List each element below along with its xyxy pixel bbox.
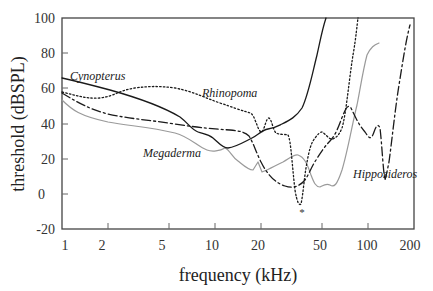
x-tick-labels: 1 2 5 10 20 50 100 200 xyxy=(62,238,421,253)
x-tick-200: 200 xyxy=(400,238,421,253)
y-tick-0: 0 xyxy=(38,187,45,202)
y-tick-neg20: -20 xyxy=(36,222,55,237)
hipposideros-curve xyxy=(62,25,410,187)
label-hipposideros: Hipposideros xyxy=(352,167,418,181)
x-axis xyxy=(108,223,368,229)
x-tick-1: 1 xyxy=(62,238,69,253)
y-tick-labels: 100 80 60 40 20 0 -20 xyxy=(34,11,55,237)
label-megaderma: Megaderma xyxy=(142,146,201,160)
y-tick-40: 40 xyxy=(41,117,55,132)
y-tick-100: 100 xyxy=(34,11,55,26)
y-tick-20: 20 xyxy=(41,152,55,167)
x-tick-2: 2 xyxy=(99,238,106,253)
asterisk-annotation: * xyxy=(299,206,305,218)
x-tick-20: 20 xyxy=(251,238,265,253)
label-cynopterus: Cynopterus xyxy=(70,69,126,83)
threshold-chart: 100 80 60 40 20 0 -20 1 2 5 10 20 50 100… xyxy=(0,0,433,291)
y-axis-title: threshold (dBSPL) xyxy=(8,56,29,192)
y-axis xyxy=(62,53,68,194)
x-tick-50: 50 xyxy=(313,238,327,253)
x-tick-100: 100 xyxy=(357,238,378,253)
y-tick-60: 60 xyxy=(41,81,55,96)
cynopterus-curve xyxy=(62,18,326,148)
x-tick-5: 5 xyxy=(159,238,166,253)
y-tick-80: 80 xyxy=(41,46,55,61)
x-axis-title: frequency (kHz) xyxy=(179,265,297,286)
x-tick-10: 10 xyxy=(205,238,219,253)
label-rhinopoma: Rhinopoma xyxy=(201,86,257,100)
rhinopoma-curve xyxy=(62,18,358,204)
